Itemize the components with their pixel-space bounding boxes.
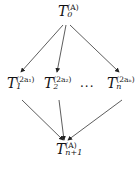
node-base: T: [58, 3, 67, 19]
node-subscript: n+1: [65, 149, 82, 157]
node-top: T(A)0: [58, 4, 79, 19]
node-base: T: [7, 75, 16, 91]
node-base: T: [107, 75, 116, 91]
node-mid2: T(2a₂)2: [44, 76, 71, 91]
node-mid1: T(2a₁)1: [7, 76, 34, 91]
node-midn: T(2aₙ)n: [107, 76, 135, 91]
node-base: T: [56, 141, 65, 157]
node-base: T: [44, 75, 53, 91]
edge-top-to-mid2: [57, 25, 66, 72]
ellipsis: ···: [80, 80, 94, 94]
edge-top-to-midn: [70, 25, 119, 72]
edge-midn-to-bottom: [68, 100, 122, 140]
edge-mid2-to-bottom: [59, 100, 64, 140]
node-bottom: T(A)n+1: [56, 142, 82, 157]
edge-top-to-mid1: [21, 25, 63, 72]
edge-mid1-to-bottom: [22, 100, 63, 140]
